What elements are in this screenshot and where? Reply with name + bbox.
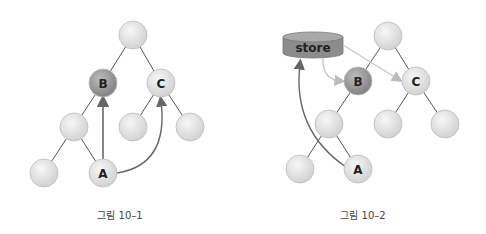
tree-node xyxy=(374,110,402,138)
tree-node xyxy=(315,110,343,138)
tree-node-a: A xyxy=(344,155,372,183)
tree-node xyxy=(286,155,314,183)
tree-node xyxy=(119,113,147,141)
node-label: A xyxy=(353,163,363,177)
tree-node xyxy=(431,110,459,138)
tree-node-c: C xyxy=(402,67,430,95)
tree-node xyxy=(119,21,147,49)
tree-node xyxy=(176,113,204,141)
tree-node-b: B xyxy=(344,67,372,95)
store-cylinder: store xyxy=(283,32,343,58)
tree-node xyxy=(374,22,402,50)
node-label: C xyxy=(157,77,166,91)
caption-figure-10-1: 그림 10–1 xyxy=(60,207,180,222)
caption-figure-10-2: 그림 10–2 xyxy=(303,207,423,222)
node-label: C xyxy=(412,75,421,89)
node-label: A xyxy=(98,167,108,181)
tree-node xyxy=(60,113,88,141)
diagram-svg: BCA storeBCA xyxy=(0,0,486,234)
figure-10-1: BCA xyxy=(30,21,204,187)
node-label: B xyxy=(353,75,362,89)
figure-10-2: storeBCA xyxy=(283,22,459,183)
tree-node-a: A xyxy=(89,159,117,187)
tree-node-c: C xyxy=(147,69,175,97)
figure-canvas: BCA storeBCA 그림 10–1 그림 10–2 xyxy=(0,0,486,234)
tree-node xyxy=(30,159,58,187)
node-label: B xyxy=(98,77,107,91)
tree-node-b: B xyxy=(89,69,117,97)
arrow-store-to-b xyxy=(323,58,340,81)
store-label: store xyxy=(295,41,330,55)
